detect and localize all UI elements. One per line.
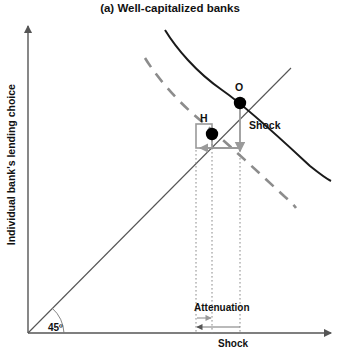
y-axis-label: Individual bank's lending choice: [6, 85, 17, 245]
page-title: (a) Well-capitalized banks: [0, 3, 340, 15]
original-best-response-curve: [165, 30, 331, 181]
x-axis-label: Shock: [218, 339, 248, 349]
angle-label: 45º: [48, 323, 63, 333]
shock-vertical-label: Shock: [249, 120, 281, 131]
diagram-canvas: [0, 0, 340, 354]
forty-five-degree-line: [28, 68, 291, 333]
point-h-dot: [206, 128, 218, 140]
attenuation-label: Attenuation: [194, 303, 250, 313]
point-h-label: H: [200, 113, 208, 124]
point-o-label: O: [235, 82, 243, 93]
point-o-dot: [234, 97, 246, 109]
